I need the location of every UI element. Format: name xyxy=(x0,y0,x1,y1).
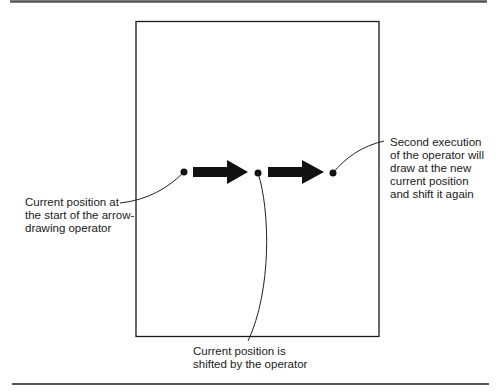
leader-line-right xyxy=(333,141,384,173)
label-start-position: Current position at the start of the arr… xyxy=(25,196,150,235)
leader-line-bottom xyxy=(248,173,267,341)
arrow-icon xyxy=(193,160,248,184)
page-rectangle xyxy=(136,22,379,337)
arrow-icon xyxy=(268,160,324,184)
label-second-execution: Second execution of the operator will dr… xyxy=(390,136,496,201)
label-shifted-position: Current position is shifted by the opera… xyxy=(193,345,353,371)
